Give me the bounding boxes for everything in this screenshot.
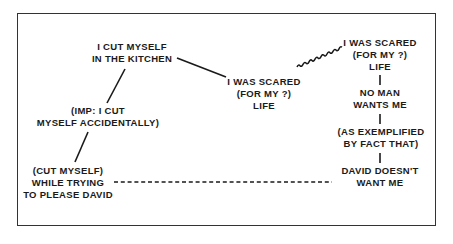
node-text: NO MAN	[353, 87, 407, 99]
edge-kitchen-to-imp	[107, 69, 125, 103]
node-text: BY FACT THAT)	[338, 138, 425, 150]
node-text: (FOR MY ?)	[227, 88, 300, 100]
node-scared-life-right: I WAS SCARED (FOR MY ?) LIFE	[343, 37, 416, 73]
node-text: WHILE TRYING	[23, 177, 113, 189]
node-david-doesnt-want: DAVID DOESN'T WANT ME	[341, 165, 418, 189]
node-text: I CUT MYSELF	[92, 41, 172, 53]
node-as-exemplified: (AS EXEMPLIFIED BY FACT THAT)	[338, 126, 425, 150]
node-text: (AS EXEMPLIFIED	[338, 126, 425, 138]
node-scared-life-middle: I WAS SCARED (FOR MY ?) LIFE	[227, 76, 300, 112]
node-no-man-wants: NO MAN WANTS ME	[353, 87, 407, 111]
node-text: IN THE KITCHEN	[92, 53, 172, 65]
node-text: (FOR MY ?)	[343, 49, 416, 61]
node-text: WANTS ME	[353, 99, 407, 111]
node-imp-cut-accidentally: (IMP: I CUT MYSELF ACCIDENTALLY)	[37, 105, 159, 129]
edge-imp-to-please-david	[75, 132, 88, 162]
node-text: DAVID DOESN'T	[341, 165, 418, 177]
node-cut-please-david: (CUT MYSELF) WHILE TRYING TO PLEASE DAVI…	[23, 165, 113, 201]
node-text: (CUT MYSELF)	[23, 165, 113, 177]
node-cut-kitchen: I CUT MYSELF IN THE KITCHEN	[92, 41, 172, 65]
node-text: MYSELF ACCIDENTALLY)	[37, 117, 159, 129]
node-text: LIFE	[227, 100, 300, 112]
node-text: LIFE	[343, 61, 416, 73]
node-text: (IMP: I CUT	[37, 105, 159, 117]
node-text: TO PLEASE DAVID	[23, 189, 113, 201]
node-text: WANT ME	[341, 177, 418, 189]
node-text: I WAS SCARED	[227, 76, 300, 88]
edge-wavy-scared-to-scared	[297, 47, 342, 67]
edge-kitchen-to-scared-middle	[177, 58, 226, 77]
node-text: I WAS SCARED	[343, 37, 416, 49]
